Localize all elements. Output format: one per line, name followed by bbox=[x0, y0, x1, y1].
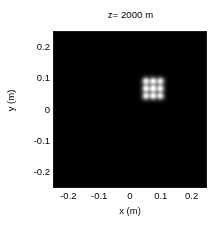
figure-canvas: z= 2000 m 0.20.10-0.1-0.2 -0.2-0.100.10.… bbox=[0, 0, 220, 236]
x-tick-label: 0.2 bbox=[172, 190, 212, 201]
x-axis-tick-labels: -0.2-0.100.10.2 bbox=[53, 190, 207, 204]
y-tick-label: -0.1 bbox=[14, 136, 50, 146]
x-axis-label: x (m) bbox=[53, 205, 207, 216]
intensity-image-axes[interactable] bbox=[53, 31, 207, 188]
y-tick-label: 0.1 bbox=[14, 73, 50, 83]
y-tick-label: -0.2 bbox=[14, 167, 50, 177]
y-tick-label: 0 bbox=[14, 105, 50, 115]
y-axis-label: y (m) bbox=[5, 71, 16, 131]
intensity-heatmap bbox=[54, 32, 207, 188]
y-axis-tick-labels: 0.20.10-0.1-0.2 bbox=[14, 31, 50, 188]
plot-title: z= 2000 m bbox=[53, 9, 208, 20]
y-tick-label: 0.2 bbox=[14, 42, 50, 52]
